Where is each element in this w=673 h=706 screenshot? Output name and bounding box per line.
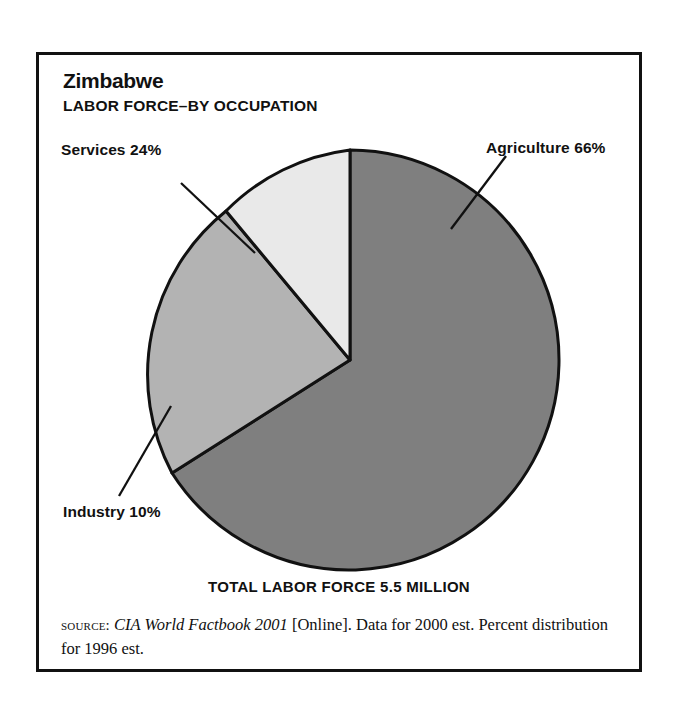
slice-label-agriculture: Agriculture 66% [486,139,606,157]
total-labor-force-label: TOTAL LABOR FORCE 5.5 MILLION [39,578,639,595]
source-prefix: source: [61,617,110,633]
slice-label-industry: Industry 10% [63,503,161,521]
pie-chart: Agriculture 66% Services 24% Industry 10… [39,55,639,669]
source-note: source: CIA World Factbook 2001 [Online]… [61,613,621,660]
source-publication-title: CIA World Factbook 2001 [114,615,288,634]
slice-label-services: Services 24% [61,141,161,159]
chart-frame: Zimbabwe LABOR FORCE–BY OCCUPATION Agric… [36,52,642,672]
